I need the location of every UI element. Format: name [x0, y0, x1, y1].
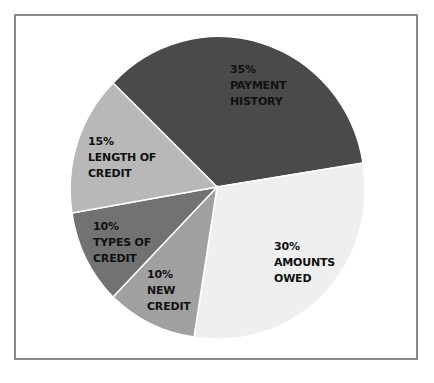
label-new-credit: 10% NEW CREDIT [147, 267, 191, 315]
label-line2: OWED [274, 271, 335, 287]
label-pct: 10% [93, 219, 151, 235]
label-line2: CREDIT [93, 251, 151, 267]
label-pct: 30% [274, 239, 335, 255]
label-amounts-owed: 30% AMOUNTS OWED [274, 239, 335, 287]
label-line2: CREDIT [147, 299, 191, 315]
label-pct: 10% [147, 267, 191, 283]
label-line1: TYPES OF [93, 235, 151, 251]
label-line1: LENGTH OF [88, 150, 156, 166]
label-line2: CREDIT [88, 166, 156, 182]
label-payment-history: 35% PAYMENT HISTORY [230, 62, 286, 110]
label-length-of-credit: 15% LENGTH OF CREDIT [88, 134, 156, 182]
label-line1: NEW [147, 283, 191, 299]
label-pct: 15% [88, 134, 156, 150]
label-line1: PAYMENT [230, 78, 286, 94]
label-pct: 35% [230, 62, 286, 78]
label-types-of-credit: 10% TYPES OF CREDIT [93, 219, 151, 267]
label-line1: AMOUNTS [274, 255, 335, 271]
label-line2: HISTORY [230, 94, 286, 110]
pie-chart [0, 0, 434, 383]
